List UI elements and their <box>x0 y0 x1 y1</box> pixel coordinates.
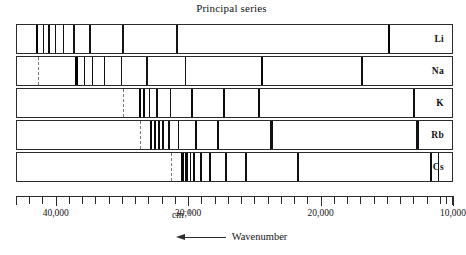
spectral-line <box>388 25 390 53</box>
spectral-line <box>414 89 416 117</box>
spectral-line <box>200 153 202 181</box>
axis-tick-minor <box>201 196 202 204</box>
axis-tick-minor <box>228 196 229 204</box>
spectral-line <box>171 153 172 181</box>
element-label-li: Li <box>434 34 444 44</box>
spectral-line <box>170 89 172 117</box>
spectral-lines <box>17 153 452 181</box>
spectral-lines <box>17 25 452 53</box>
wavenumber-axis <box>16 196 453 208</box>
spectral-line <box>209 153 211 181</box>
unit-exponent: −1 <box>184 208 191 216</box>
spectrum-row-li: Li <box>16 24 453 54</box>
axis-tick-minor <box>215 196 216 204</box>
spectral-line <box>190 153 192 181</box>
axis-tick-minor <box>175 196 176 204</box>
spectral-line <box>104 57 106 85</box>
spectral-line <box>181 153 183 181</box>
spectral-line <box>55 25 57 53</box>
spectral-line <box>154 121 156 149</box>
spectral-line <box>168 121 170 149</box>
axis-tick-minor <box>162 196 163 204</box>
spectral-line <box>185 153 187 181</box>
axis-tick-minor <box>446 196 447 204</box>
spectral-line <box>217 121 219 149</box>
axis-tick-minor <box>268 196 269 204</box>
spectral-line <box>73 25 75 53</box>
spectral-line <box>140 121 141 149</box>
spectral-line <box>176 25 178 53</box>
spectral-line <box>122 25 124 53</box>
spectrum-row-rb: Rb <box>16 120 453 150</box>
axis-tick-minor <box>334 196 335 204</box>
axis-tick-minor <box>135 196 136 204</box>
axis-tick-minor <box>347 196 348 204</box>
axis-tick-major <box>188 196 189 206</box>
axis-tick-minor <box>254 196 255 204</box>
spectral-line <box>245 153 247 181</box>
element-label-k: K <box>436 98 444 108</box>
axis-tick-minor <box>281 196 282 204</box>
spectrum-row-k: K <box>16 88 453 118</box>
spectral-line <box>149 89 151 117</box>
axis-title: Wavenumber <box>0 231 463 242</box>
axis-tick-minor <box>95 196 96 204</box>
spectral-line <box>297 153 299 181</box>
axis-tick-minor <box>148 196 149 204</box>
axis-endcap <box>16 196 17 205</box>
spectral-line <box>272 121 274 149</box>
spectral-line <box>193 153 195 181</box>
chart-title: Principal series <box>0 2 463 14</box>
spectral-line <box>430 153 432 181</box>
spectral-line <box>185 57 187 85</box>
axis-tick-minor <box>360 196 361 204</box>
axis-tick-label: 40,000 <box>43 208 69 218</box>
element-label-rb: Rb <box>431 130 444 140</box>
spectrum-row-cs: Cs <box>16 152 453 182</box>
spectral-lines <box>17 57 452 85</box>
spectrum-row-na: Na <box>16 56 453 86</box>
direction-arrow-icon <box>176 233 228 242</box>
axis-tick-minor <box>241 196 242 204</box>
axis-tick-minor <box>387 196 388 204</box>
axis-tick-minor <box>122 196 123 204</box>
spectral-line <box>191 89 193 117</box>
spectral-lines <box>17 121 452 149</box>
axis-tick-minor <box>374 196 375 204</box>
spectral-line <box>178 121 180 149</box>
spectral-line <box>75 57 77 85</box>
spectral-line <box>258 89 260 117</box>
axis-endcap <box>452 196 453 205</box>
spectral-line <box>417 121 419 149</box>
axis-tick-minor <box>413 196 414 204</box>
axis-tick-minor <box>82 196 83 204</box>
spectral-line <box>48 25 50 53</box>
spectral-line <box>43 25 45 53</box>
spectral-line <box>223 89 225 117</box>
spectral-line <box>158 121 160 149</box>
axis-tick-minor <box>294 196 295 204</box>
spectral-line <box>139 89 141 117</box>
axis-tick-minor <box>440 196 441 204</box>
axis-tick-minor <box>69 196 70 204</box>
axis-tick-minor <box>427 196 428 204</box>
axis-tick-major <box>56 196 57 206</box>
axis-tick-label: 20,000 <box>308 208 334 218</box>
axis-tick-minor <box>109 196 110 204</box>
spectral-line <box>195 121 197 149</box>
axis-tick-major <box>321 196 322 206</box>
spectral-line <box>143 89 145 117</box>
spectral-line <box>63 25 65 53</box>
spectral-line <box>162 121 164 149</box>
axis-unit-label: cm−1 <box>172 208 191 220</box>
axis-tick-minor <box>29 196 30 204</box>
axis-tick-major <box>453 196 454 206</box>
unit-text: cm <box>172 210 184 220</box>
spectral-line <box>156 89 158 117</box>
axis-tick-label: 10,000 <box>440 208 466 218</box>
spectral-line <box>38 57 39 85</box>
spectral-line <box>89 25 91 53</box>
spectral-line <box>225 153 227 181</box>
spectral-lines <box>17 89 452 117</box>
